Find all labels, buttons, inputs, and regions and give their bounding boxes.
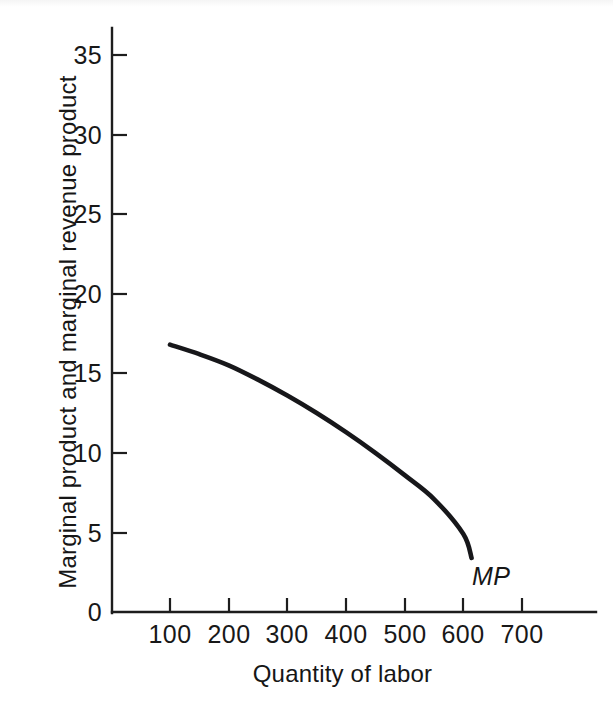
x-axis-ticks (170, 598, 522, 612)
y-axis-title: Marginal product and marginal revenue pr… (54, 52, 82, 612)
x-tick-label-100: 100 (149, 622, 192, 647)
x-tick-label-200: 200 (208, 622, 251, 647)
x-axis-title: Quantity of labor (0, 660, 613, 688)
axes-group (112, 28, 596, 613)
x-tick-label-600: 600 (442, 622, 485, 647)
data-series-group (170, 345, 472, 558)
curve-marginal-product (170, 345, 472, 558)
x-tick-label-500: 500 (384, 622, 427, 647)
series-label-mp: MP (472, 562, 511, 591)
figure-marginal-product-chart: 35 30 25 20 15 10 5 0 100 200 300 400 50… (0, 0, 613, 720)
x-tick-label-700: 700 (501, 622, 544, 647)
x-tick-label-400: 400 (325, 622, 368, 647)
y-axis-ticks (112, 55, 127, 533)
x-tick-label-300: 300 (266, 622, 309, 647)
